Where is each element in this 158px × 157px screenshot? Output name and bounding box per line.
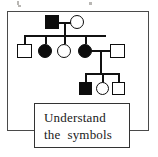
caption-line-2: the symbols [44,126,129,143]
descent-line-gen1 [64,22,66,36]
pedigree-symbol-II-3[interactable] [57,44,71,58]
child-drop-line [45,35,47,44]
child-drop-line [85,35,87,44]
caption-line-1: Understand [44,109,129,126]
pedigree-symbol-II-1[interactable] [17,44,32,58]
caption-box: Understand the symbols [34,103,130,148]
child-drop-line [64,35,66,44]
pedigree-symbol-I-1[interactable] [45,15,59,29]
pedigree-symbol-II-2[interactable] [38,44,52,58]
pedigree-symbol-II-5[interactable] [110,44,125,58]
descent-line-gen2 [100,50,102,74]
pedigree-symbol-III-1[interactable] [79,82,92,95]
pedigree-symbol-III-3[interactable] [112,82,125,95]
figure-canvas: Understand the symbols [0,0,158,157]
pedigree-symbol-III-2[interactable] [96,82,109,95]
pedigree-symbol-II-4[interactable] [78,44,92,58]
child-drop-line [24,35,26,44]
pedigree-symbol-I-2[interactable] [70,15,84,29]
